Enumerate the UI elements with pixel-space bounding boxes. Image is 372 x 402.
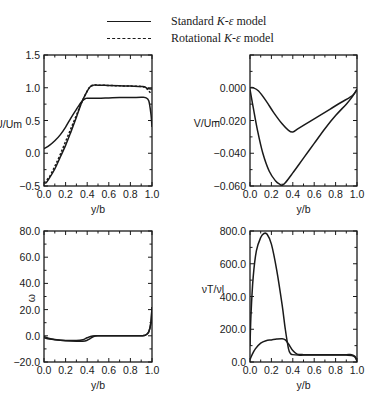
x-tick-label: 1.0 bbox=[350, 188, 365, 200]
y-tick-label: −0.5 bbox=[19, 180, 40, 192]
y-tick-label: 1.5 bbox=[25, 49, 40, 61]
axes-frame bbox=[250, 231, 357, 362]
x-tick-label: 1.0 bbox=[350, 364, 365, 376]
x-tick-label: 0.4 bbox=[285, 188, 300, 200]
x-axis-label: y/b bbox=[91, 203, 105, 215]
axes-frame bbox=[44, 231, 152, 362]
x-tick-label: 0.6 bbox=[307, 364, 322, 376]
series-line bbox=[250, 233, 357, 361]
x-axis-label: y/b bbox=[296, 379, 310, 391]
y-axis-label: ω bbox=[25, 294, 37, 302]
y-tick-label: −0.060 bbox=[214, 180, 247, 192]
y-tick-label: 1.0 bbox=[25, 82, 40, 94]
plot-u-profile: 0.00.20.40.60.81.0−0.50.00.51.01.5y/bU/U… bbox=[0, 49, 159, 215]
y-tick-label: 40.0 bbox=[20, 277, 41, 289]
y-axis-label: V/Um bbox=[194, 117, 221, 129]
y-tick-label: 80.0 bbox=[20, 225, 41, 237]
x-tick-label: 0.6 bbox=[101, 364, 116, 376]
x-tick-label: 0.8 bbox=[328, 364, 343, 376]
y-axis-label: U/Um bbox=[0, 118, 22, 130]
x-tick-label: 0.6 bbox=[101, 188, 116, 200]
x-tick-label: 0.2 bbox=[58, 188, 73, 200]
x-tick-label: 0.8 bbox=[123, 188, 138, 200]
plot-omega-profile: 0.00.20.40.60.81.0−20.00.020.040.060.080… bbox=[13, 225, 159, 391]
plot-viscosity-ratio-profile: 0.00.20.40.60.81.00.0200.0400.0600.0800.… bbox=[202, 225, 365, 391]
y-tick-label: −20.0 bbox=[13, 356, 40, 368]
y-tick-label: 0.0 bbox=[25, 147, 40, 159]
y-tick-label: 0.0 bbox=[25, 330, 40, 342]
y-tick-label: 0.5 bbox=[25, 115, 40, 127]
x-axis-label: y/b bbox=[91, 379, 105, 391]
y-tick-label: 0.000 bbox=[220, 82, 246, 94]
y-tick-label: 20.0 bbox=[20, 304, 41, 316]
series-line bbox=[44, 97, 152, 148]
x-tick-label: 0.6 bbox=[307, 188, 322, 200]
axes-frame bbox=[250, 55, 357, 186]
y-axis-label: νT/νl bbox=[202, 283, 224, 295]
x-tick-label: 1.0 bbox=[145, 188, 160, 200]
series-line bbox=[44, 307, 152, 341]
x-tick-label: 0.4 bbox=[285, 364, 300, 376]
series-line bbox=[250, 89, 357, 185]
y-tick-label: 800.0 bbox=[220, 225, 246, 237]
axes-frame bbox=[44, 55, 152, 186]
y-tick-label: 600.0 bbox=[220, 258, 246, 270]
x-tick-label: 0.2 bbox=[58, 364, 73, 376]
y-tick-label: 0.0 bbox=[231, 356, 246, 368]
x-tick-label: 0.2 bbox=[264, 188, 279, 200]
y-tick-label: 60.0 bbox=[20, 251, 41, 263]
x-tick-label: 0.4 bbox=[80, 188, 95, 200]
plots-canvas: 0.00.20.40.60.81.0−0.50.00.51.01.5y/bU/U… bbox=[0, 0, 372, 402]
y-tick-label: −0.040 bbox=[214, 147, 247, 159]
x-tick-label: 0.4 bbox=[80, 364, 95, 376]
x-axis-label: y/b bbox=[296, 203, 310, 215]
plot-v-profile: 0.00.20.40.60.81.00.000−0.020−0.040−0.06… bbox=[194, 55, 365, 215]
x-tick-label: 0.8 bbox=[123, 364, 138, 376]
x-tick-label: 1.0 bbox=[145, 364, 160, 376]
x-tick-label: 0.2 bbox=[264, 364, 279, 376]
y-tick-label: 200.0 bbox=[220, 323, 246, 335]
x-tick-label: 0.8 bbox=[328, 188, 343, 200]
series-line bbox=[250, 339, 357, 361]
